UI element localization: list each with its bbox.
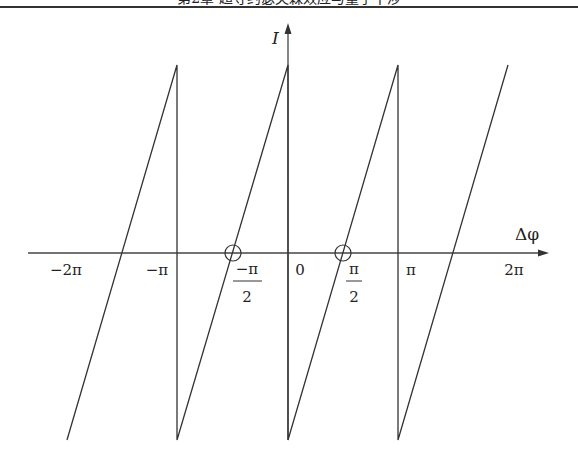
tick-pi: π	[406, 261, 416, 279]
x-axis-arrow-icon	[538, 250, 549, 257]
tick-minus-2pi: −2π	[50, 261, 82, 279]
y-axis-arrow-icon	[285, 23, 292, 34]
tick-zero: 0	[295, 261, 305, 279]
tick-minus-half-pi-den: 2	[242, 288, 252, 306]
tick-half-pi-den: 2	[349, 288, 359, 306]
tick-minus-pi: −π	[146, 261, 169, 279]
sawtooth-diagram: 第2章 超导约瑟夫森效应与量子干涉 I Δφ −2π −π 0 π 2π −π …	[0, 0, 578, 464]
tick-minus-half-pi-num: −π	[236, 260, 259, 278]
tick-2pi: 2π	[504, 261, 524, 279]
x-axis-label: Δφ	[515, 224, 539, 244]
y-axis-label: I	[271, 28, 279, 48]
tick-half-pi-num: π	[349, 260, 359, 278]
header-title: 第2章 超导约瑟夫森效应与量子干涉	[177, 0, 400, 6]
